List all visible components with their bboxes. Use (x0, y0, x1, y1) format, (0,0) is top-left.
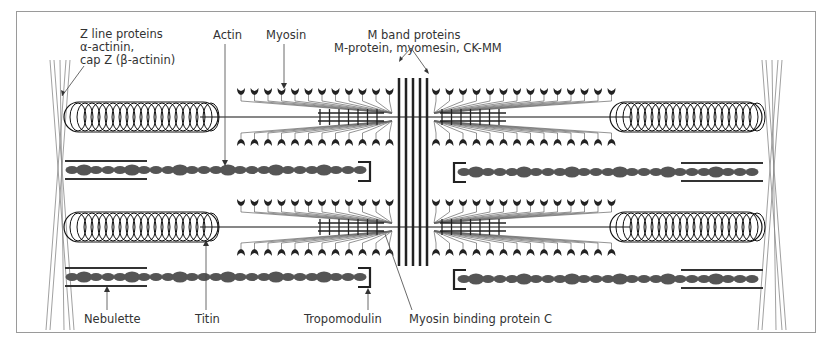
z-line-right (758, 60, 786, 330)
label-myosin-binding-protein-c: Myosin binding protein C (409, 313, 552, 326)
label-z-line: Z line proteins α-actinin, cap Z (β-acti… (80, 28, 175, 67)
pointer-lines (62, 44, 428, 310)
label-cap-z: cap Z (β-actinin) (80, 54, 175, 67)
label-actin: Actin (213, 29, 242, 42)
label-myosin: Myosin (266, 29, 306, 42)
label-tropomodulin: Tropomodulin (304, 313, 382, 326)
m-band-lines (399, 78, 427, 266)
label-titin: Titin (195, 313, 220, 326)
label-m-band: M band proteins M-protein, myomesin, CK-… (334, 29, 494, 55)
label-m-band-proteins: M-protein, myomesin, CK-MM (334, 42, 494, 55)
z-line-left (46, 60, 74, 330)
label-nebulette: Nebulette (84, 313, 141, 326)
